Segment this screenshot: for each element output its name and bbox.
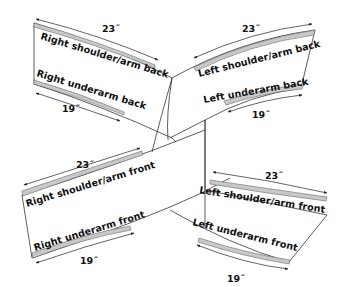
label-underarm: Right underarm front (32, 208, 146, 252)
panel-right-back: 23˝ 19˝ Right shoulder/arm back Right un… (34, 19, 176, 142)
dimension-shoulder-length: 23˝ (76, 159, 94, 170)
dimension-shoulder-length: 23˝ (102, 23, 120, 34)
dimension-shoulder-length: 23˝ (242, 23, 260, 34)
panel-left-back: 23˝ 19˝ Left shoulder/arm back Left unde… (170, 23, 322, 138)
panel-left-front: 23˝ 19˝ Left shoulder/arm front Left und… (170, 170, 327, 284)
dimension-underarm-length: 19˝ (227, 273, 245, 284)
sleeve-layout-diagram: 23˝ 19˝ Right shoulder/arm back Right un… (0, 0, 341, 287)
center-crossing (152, 78, 205, 228)
fold-line (152, 78, 172, 152)
label-underarm: Left underarm front (192, 216, 300, 253)
dimension-arrow-underarm (197, 245, 288, 269)
dimension-underarm-length: 19˝ (252, 109, 270, 120)
dimension-underarm-length: 19˝ (62, 103, 80, 114)
dimension-shoulder-length: 23˝ (265, 170, 283, 181)
dimension-underarm-length: 19˝ (80, 255, 98, 266)
label-underarm: Left underarm back (202, 76, 309, 105)
label-shoulder: Right shoulder/arm back (39, 30, 170, 80)
